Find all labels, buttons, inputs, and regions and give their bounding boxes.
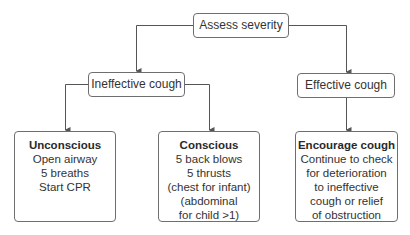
node-line: of obstruction — [296, 208, 397, 222]
node-line: 5 breaths — [15, 166, 115, 180]
node-line: 5 thrusts — [159, 166, 259, 180]
node-conscious: Conscious 5 back blows 5 thrusts (chest … — [158, 131, 260, 222]
node-unconscious: Unconscious Open airway 5 breaths Start … — [14, 131, 116, 222]
node-line: for deterioration — [296, 166, 397, 180]
node-label: Assess severity — [199, 18, 282, 32]
node-label: Ineffective cough — [91, 77, 182, 91]
node-line: Open airway — [15, 152, 115, 166]
node-line: 5 back blows — [159, 152, 259, 166]
node-ineffective-cough: Ineffective cough — [88, 72, 185, 97]
edge-root-effective — [289, 26, 347, 73]
edge-ineffective-conscious — [185, 85, 210, 131]
node-encourage-cough: Encourage cough Continue to check for de… — [295, 131, 398, 222]
node-title: Encourage cough — [296, 138, 397, 152]
node-line: (abdominal — [159, 194, 259, 208]
node-effective-cough: Effective cough — [297, 73, 395, 98]
node-line: to ineffective — [296, 180, 397, 194]
node-line: (chest for infant) — [159, 180, 259, 194]
node-line: for child >1) — [159, 208, 259, 222]
node-line: Start CPR — [15, 180, 115, 194]
edge-root-ineffective — [137, 26, 194, 72]
node-label: Effective cough — [305, 78, 387, 92]
node-assess-severity: Assess severity — [193, 13, 289, 38]
edge-ineffective-unconscious — [66, 85, 89, 131]
node-title: Conscious — [159, 138, 259, 152]
node-title: Unconscious — [15, 138, 115, 152]
node-line: cough or relief — [296, 194, 397, 208]
node-line: Continue to check — [296, 152, 397, 166]
